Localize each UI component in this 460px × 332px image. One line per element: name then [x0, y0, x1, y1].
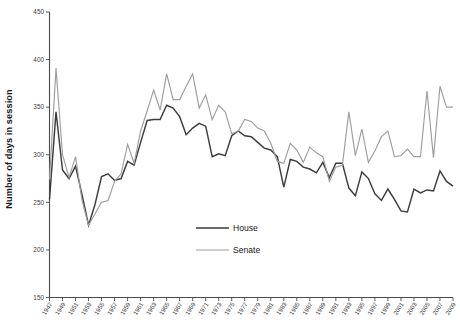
x-tick-label: 1947 — [40, 300, 53, 316]
x-tick-label: 1961 — [131, 300, 144, 316]
x-tick-label: 1997 — [366, 300, 379, 316]
y-axis-label: Number of days in session — [0, 0, 18, 297]
x-tick-label: 1987 — [301, 300, 314, 316]
x-tick-label: 2005 — [418, 300, 431, 316]
y-tick-label: 300 — [33, 151, 44, 158]
x-tick-label: 1965 — [157, 300, 170, 316]
x-tick-label: 1969 — [183, 300, 196, 316]
x-tick-label: 1975 — [222, 300, 235, 316]
x-tick-label: 1973 — [209, 300, 222, 316]
legend-label-senate: Senate — [233, 245, 260, 255]
y-tick-label: 450 — [33, 8, 44, 15]
x-tick-label: 1981 — [261, 300, 274, 316]
chart-container: Number of days in session 15020025030035… — [0, 0, 460, 332]
chart-legend: HouseSenate — [196, 223, 260, 255]
x-tick-label: 1999 — [379, 300, 392, 316]
x-tick-label: 1971 — [196, 300, 209, 316]
y-axis-ticks: 150200250300350400450 — [33, 8, 49, 301]
y-tick-label: 400 — [33, 56, 44, 63]
x-tick-label: 1949 — [53, 300, 66, 316]
x-tick-label: 2009 — [444, 300, 457, 316]
x-tick-label: 1953 — [79, 300, 92, 316]
x-tick-label: 2001 — [392, 300, 405, 316]
y-tick-label: 200 — [33, 246, 44, 253]
x-tick-label: 1983 — [275, 300, 288, 316]
y-tick-label: 350 — [33, 103, 44, 110]
x-tick-label: 1977 — [235, 300, 248, 316]
x-tick-label: 1979 — [248, 300, 261, 316]
x-tick-label: 1989 — [314, 300, 327, 316]
x-axis-ticks: 1947194919511953195519571959196119631965… — [40, 298, 457, 317]
x-tick-label: 2007 — [431, 300, 444, 316]
y-axis-label-text: Number of days in session — [4, 89, 14, 208]
x-tick-label: 1967 — [170, 300, 183, 316]
series-line-senate — [50, 68, 454, 225]
line-chart-plot: 150200250300350400450 194719491951195319… — [0, 0, 460, 332]
x-tick-label: 1963 — [144, 300, 157, 316]
x-tick-label: 1985 — [288, 300, 301, 316]
x-tick-label: 1995 — [353, 300, 366, 316]
x-tick-label: 1957 — [105, 300, 118, 316]
x-tick-label: 2003 — [405, 300, 418, 316]
x-tick-label: 1951 — [66, 300, 79, 316]
x-tick-label: 1993 — [340, 300, 353, 316]
series-line-house — [50, 105, 454, 225]
x-tick-label: 1955 — [92, 300, 105, 316]
data-series-group — [50, 68, 454, 225]
y-tick-label: 150 — [33, 294, 44, 301]
y-tick-label: 250 — [33, 199, 44, 206]
x-tick-label: 1959 — [118, 300, 131, 316]
x-tick-label: 1991 — [327, 300, 340, 316]
legend-label-house: House — [233, 223, 258, 233]
